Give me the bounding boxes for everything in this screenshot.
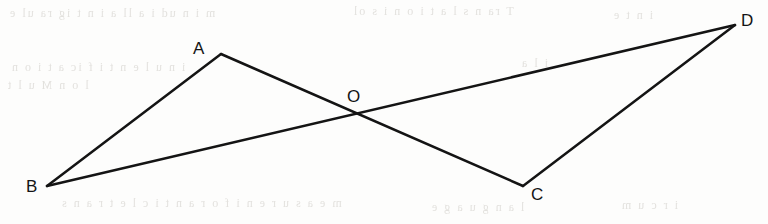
vertex-label-b: B [26,178,37,195]
geometry-diagram [0,0,768,224]
vertex-label-o: O [347,88,360,105]
geometry-figure-canvas: m i n ud i a ll a i n t ig ra ul eT ra n… [0,0,768,224]
vertex-label-c: C [531,186,543,203]
vertex-label-a: A [193,40,204,57]
segment-b-d [47,25,735,186]
vertex-label-d: D [741,12,753,29]
segment-group [47,25,735,186]
segment-a-c [221,54,523,186]
